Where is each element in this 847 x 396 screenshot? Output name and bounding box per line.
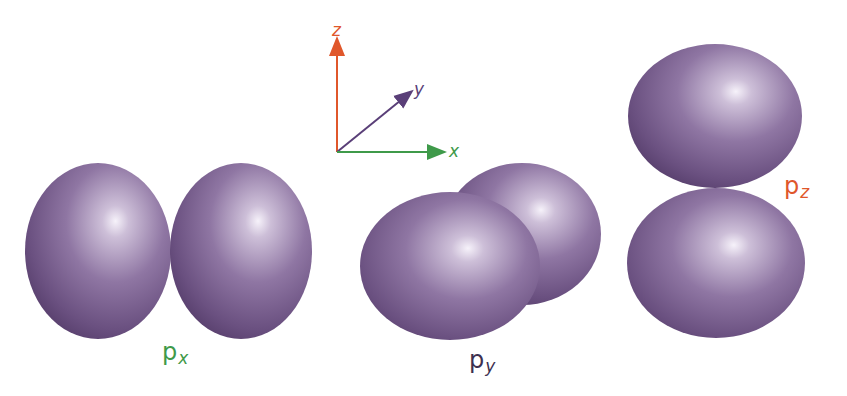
px-label-main: p (162, 338, 177, 366)
pz-lobe-bottom (627, 188, 805, 338)
px-orbital (25, 163, 312, 339)
y-axis-label: y (414, 81, 424, 98)
px-label: px (162, 340, 188, 364)
orbital-drawing (0, 0, 847, 396)
coordinate-axes (337, 46, 437, 152)
py-label-sub: y (485, 356, 495, 376)
px-lobe-left (25, 163, 171, 339)
pz-label-main: p (784, 172, 799, 200)
p-orbitals-diagram: z y x px py pz (0, 0, 847, 396)
pz-label-sub: z (800, 182, 809, 202)
py-label-main: p (469, 346, 484, 374)
py-lobe-front (360, 192, 540, 340)
py-label: py (469, 348, 495, 372)
x-axis-label: x (449, 143, 459, 160)
px-lobe-right (170, 163, 312, 339)
px-label-sub: x (178, 348, 188, 368)
py-orbital (360, 163, 601, 340)
pz-label: pz (784, 174, 809, 198)
y-axis-arrow (337, 96, 406, 152)
pz-lobe-top (628, 44, 802, 188)
z-axis-label: z (332, 22, 341, 39)
pz-orbital (627, 44, 805, 338)
